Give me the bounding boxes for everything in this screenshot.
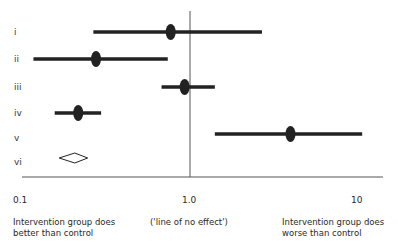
forest-row-i — [93, 24, 262, 40]
forest-plot-graphic — [0, 0, 398, 251]
row-label-iii: iii — [14, 82, 22, 92]
point-estimate-marker — [180, 79, 190, 95]
forest-row-vi — [59, 153, 87, 163]
point-estimate-marker — [166, 24, 176, 40]
forest-row-ii — [33, 51, 167, 67]
forest-plot: i ii iii iv v vi 0.1 1.0 10 Intervention… — [0, 0, 398, 251]
forest-row-v — [215, 126, 362, 142]
row-label-ii: ii — [14, 54, 19, 64]
caption-center: ('line of no effect') — [150, 217, 228, 228]
caption-right-line1: Intervention group does — [282, 217, 384, 228]
summary-diamond-icon — [59, 153, 87, 163]
point-estimate-marker — [285, 126, 295, 142]
x-tick-10: 10 — [351, 195, 362, 205]
caption-left-line1: Intervention group does — [13, 217, 115, 228]
forest-row-iii — [162, 79, 215, 95]
caption-center-text: ('line of no effect') — [150, 217, 228, 228]
row-label-vi: vi — [14, 157, 22, 167]
point-estimate-marker — [91, 51, 101, 67]
caption-left-line2: better than control — [13, 228, 115, 239]
row-label-v: v — [14, 133, 19, 143]
point-estimate-marker — [73, 105, 83, 121]
row-label-i: i — [14, 27, 17, 37]
caption-right-line2: worse than control — [282, 228, 384, 239]
x-tick-0.1: 0.1 — [13, 195, 27, 205]
caption-left: Intervention group does better than cont… — [13, 217, 115, 239]
forest-row-iv — [55, 105, 101, 121]
forest-rows — [33, 24, 362, 163]
x-tick-1.0: 1.0 — [182, 195, 196, 205]
caption-right: Intervention group does worse than contr… — [282, 217, 384, 239]
row-label-iv: iv — [14, 108, 22, 118]
